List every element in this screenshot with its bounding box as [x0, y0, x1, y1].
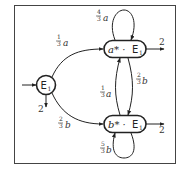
- automaton-diagram: E 1 2 a* · E 1 2 b* · E 1 2 1 3 a 2 3 b …: [0, 0, 186, 175]
- svg-text:3: 3: [59, 122, 63, 129]
- final-weight-bstar: 2: [159, 125, 165, 135]
- svg-text:b: b: [142, 76, 148, 86]
- transition-e1-to-astar: [52, 49, 103, 77]
- svg-text:2: 2: [59, 115, 63, 122]
- svg-text:3: 3: [57, 40, 61, 47]
- svg-text:a: a: [106, 89, 111, 99]
- state-bstar-e1[interactable]: b* · E 1: [104, 116, 146, 133]
- state-bstar-label: E: [132, 119, 138, 130]
- svg-text:b: b: [106, 145, 112, 155]
- state-e1-subscript: 1: [48, 85, 52, 92]
- label-astar-to-bstar: 2 3 b: [136, 71, 148, 86]
- transition-bstar-to-astar: [116, 58, 121, 115]
- final-weight-astar: 2: [159, 37, 165, 47]
- label-e1-to-bstar: 2 3 b: [58, 115, 71, 130]
- svg-text:3: 3: [101, 91, 105, 98]
- svg-text:1: 1: [101, 84, 105, 91]
- label-loop-bstar: 5 3 b: [100, 140, 112, 155]
- svg-text:3: 3: [101, 147, 105, 154]
- svg-text:2: 2: [137, 71, 141, 78]
- svg-text:5: 5: [101, 140, 105, 147]
- svg-text:b: b: [65, 120, 71, 130]
- svg-text:4: 4: [97, 8, 101, 15]
- svg-text:3: 3: [137, 78, 141, 85]
- state-astar-e1[interactable]: a* · E 1: [104, 41, 146, 58]
- label-bstar-to-astar: 1 3 a: [100, 84, 111, 99]
- state-astar-subscript: 1: [139, 49, 143, 56]
- label-loop-astar: 4 3 a: [96, 8, 108, 23]
- svg-text:3: 3: [97, 15, 101, 22]
- state-e1-label: E: [41, 80, 47, 91]
- final-weight-e1: 2: [38, 104, 44, 114]
- state-astar-prefix: a* ·: [108, 44, 125, 55]
- state-bstar-subscript: 1: [139, 124, 143, 131]
- transition-astar-to-bstar: [128, 58, 133, 115]
- state-bstar-prefix: b* ·: [108, 119, 126, 130]
- state-astar-label: E: [132, 44, 138, 55]
- loop-astar: [112, 10, 134, 40]
- loop-bstar: [113, 133, 134, 158]
- label-e1-to-astar: 1 3 a: [56, 33, 68, 48]
- state-e1[interactable]: E 1: [37, 76, 56, 95]
- svg-text:a: a: [103, 13, 108, 23]
- svg-text:a: a: [63, 38, 68, 48]
- svg-text:1: 1: [57, 33, 61, 40]
